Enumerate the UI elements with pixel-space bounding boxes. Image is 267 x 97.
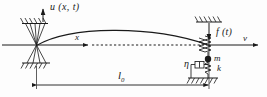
figure-canvas: u (x, t) x v f (t) η m k l0 (0, 0, 267, 97)
upper-coil-spring-2 (199, 38, 205, 52)
label-u-x-t: u (x, t) (50, 2, 80, 12)
label-k-stiffness: k (217, 64, 221, 73)
left-support-lower-hatch (21, 63, 50, 69)
label-m-mass: m (214, 54, 221, 63)
label-l0-subscript: 0 (121, 76, 124, 83)
left-support-upper-hatch (21, 18, 49, 24)
right-support-ceiling-hatch (195, 17, 222, 23)
label-v-velocity: v (243, 34, 247, 43)
label-f-of-t: f (t) (216, 27, 232, 37)
schematic-svg (0, 0, 267, 97)
label-eta-damping: η (184, 59, 189, 69)
right-support-ground-hatch (187, 78, 218, 84)
beam-curve (37, 30, 208, 45)
left-support-upper-legs (26, 24, 46, 46)
left-support-cross-legs (27, 45, 46, 63)
label-x-axis: x (75, 33, 79, 42)
label-l0-length: l0 (118, 70, 124, 84)
